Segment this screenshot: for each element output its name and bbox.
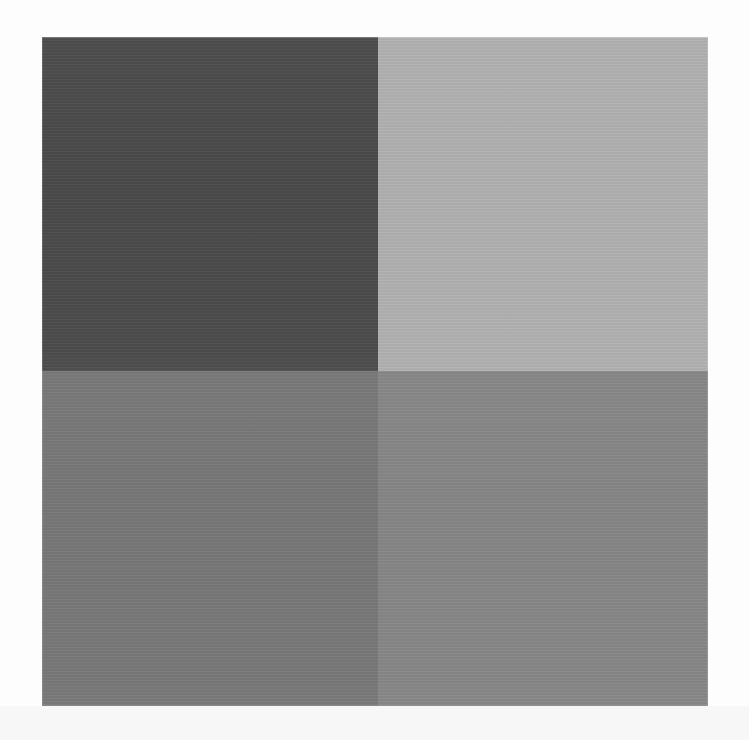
quadrant-bottom-left: [42, 371, 378, 706]
quadrant-top-left: [42, 37, 378, 371]
quadrant-bottom-right: [378, 371, 708, 706]
page-backdrop-lower-margin: [0, 706, 749, 740]
quadrant-top-right: [378, 37, 708, 371]
four-quadrant-grayscale-image: [42, 37, 708, 706]
